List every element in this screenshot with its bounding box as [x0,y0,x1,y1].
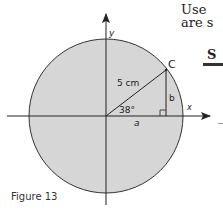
point-c-label: C [168,58,176,71]
unit-circle-diagram: y x C 5 cm 38° b a [0,0,223,216]
y-axis-label: y [108,28,115,38]
adjacent-label: a [134,118,140,128]
opposite-label: b [169,93,175,103]
point-c [165,69,167,71]
angle-label: 38° [119,105,135,115]
figure-caption: Figure 13 [11,191,57,202]
radius-label: 5 cm [117,78,139,88]
x-axis-label: x [186,103,192,112]
